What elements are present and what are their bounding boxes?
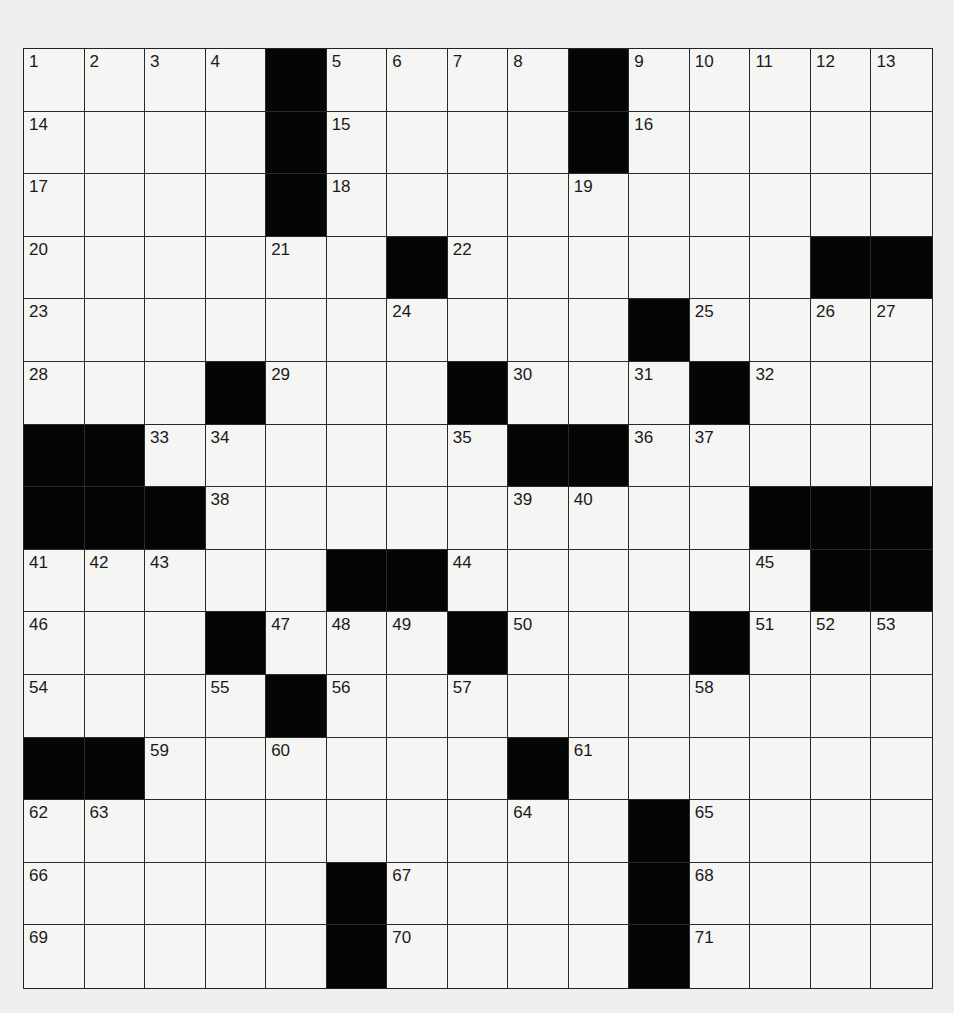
grid-cell[interactable] xyxy=(811,362,872,425)
grid-cell[interactable] xyxy=(85,237,146,300)
grid-cell[interactable] xyxy=(145,800,206,863)
grid-cell[interactable]: 29 xyxy=(266,362,327,425)
grid-cell[interactable] xyxy=(387,362,448,425)
grid-cell[interactable]: 14 xyxy=(24,112,85,175)
grid-cell[interactable] xyxy=(508,237,569,300)
grid-cell[interactable]: 43 xyxy=(145,550,206,613)
grid-cell[interactable]: 51 xyxy=(750,612,811,675)
grid-cell[interactable] xyxy=(448,863,509,926)
grid-cell[interactable] xyxy=(508,863,569,926)
grid-cell[interactable] xyxy=(871,362,932,425)
grid-cell[interactable] xyxy=(448,174,509,237)
grid-cell[interactable] xyxy=(629,675,690,738)
grid-cell[interactable] xyxy=(448,487,509,550)
grid-cell[interactable] xyxy=(85,362,146,425)
grid-cell[interactable] xyxy=(508,675,569,738)
grid-cell[interactable] xyxy=(508,112,569,175)
grid-cell[interactable]: 22 xyxy=(448,237,509,300)
grid-cell[interactable] xyxy=(629,738,690,801)
grid-cell[interactable] xyxy=(871,863,932,926)
grid-cell[interactable] xyxy=(327,800,388,863)
grid-cell[interactable]: 2 xyxy=(85,49,146,112)
grid-cell[interactable] xyxy=(145,863,206,926)
grid-cell[interactable]: 62 xyxy=(24,800,85,863)
grid-cell[interactable] xyxy=(569,800,630,863)
grid-cell[interactable]: 52 xyxy=(811,612,872,675)
grid-cell[interactable] xyxy=(327,237,388,300)
grid-cell[interactable]: 57 xyxy=(448,675,509,738)
grid-cell[interactable] xyxy=(387,112,448,175)
grid-cell[interactable] xyxy=(750,675,811,738)
grid-cell[interactable]: 34 xyxy=(206,425,267,488)
grid-cell[interactable] xyxy=(629,612,690,675)
grid-cell[interactable] xyxy=(508,550,569,613)
grid-cell[interactable] xyxy=(85,299,146,362)
grid-cell[interactable] xyxy=(750,425,811,488)
grid-cell[interactable] xyxy=(145,112,206,175)
grid-cell[interactable]: 17 xyxy=(24,174,85,237)
grid-cell[interactable]: 68 xyxy=(690,863,751,926)
grid-cell[interactable] xyxy=(266,550,327,613)
grid-cell[interactable] xyxy=(85,112,146,175)
grid-cell[interactable]: 12 xyxy=(811,49,872,112)
grid-cell[interactable] xyxy=(871,112,932,175)
grid-cell[interactable] xyxy=(750,237,811,300)
grid-cell[interactable] xyxy=(327,425,388,488)
grid-cell[interactable]: 46 xyxy=(24,612,85,675)
grid-cell[interactable] xyxy=(85,925,146,988)
grid-cell[interactable]: 10 xyxy=(690,49,751,112)
grid-cell[interactable]: 61 xyxy=(569,738,630,801)
grid-cell[interactable]: 40 xyxy=(569,487,630,550)
grid-cell[interactable] xyxy=(811,112,872,175)
grid-cell[interactable] xyxy=(145,925,206,988)
grid-cell[interactable] xyxy=(569,362,630,425)
grid-cell[interactable] xyxy=(145,675,206,738)
grid-cell[interactable] xyxy=(750,925,811,988)
grid-cell[interactable]: 27 xyxy=(871,299,932,362)
grid-cell[interactable]: 24 xyxy=(387,299,448,362)
grid-cell[interactable] xyxy=(750,299,811,362)
grid-cell[interactable]: 56 xyxy=(327,675,388,738)
grid-cell[interactable] xyxy=(266,425,327,488)
grid-cell[interactable] xyxy=(811,174,872,237)
grid-cell[interactable]: 20 xyxy=(24,237,85,300)
grid-cell[interactable]: 23 xyxy=(24,299,85,362)
grid-cell[interactable] xyxy=(690,237,751,300)
grid-cell[interactable]: 32 xyxy=(750,362,811,425)
grid-cell[interactable]: 37 xyxy=(690,425,751,488)
grid-cell[interactable] xyxy=(569,299,630,362)
grid-cell[interactable] xyxy=(569,237,630,300)
grid-cell[interactable] xyxy=(690,487,751,550)
grid-cell[interactable]: 19 xyxy=(569,174,630,237)
grid-cell[interactable]: 38 xyxy=(206,487,267,550)
grid-cell[interactable]: 25 xyxy=(690,299,751,362)
grid-cell[interactable] xyxy=(206,550,267,613)
grid-cell[interactable]: 41 xyxy=(24,550,85,613)
grid-cell[interactable] xyxy=(387,675,448,738)
grid-cell[interactable]: 67 xyxy=(387,863,448,926)
grid-cell[interactable] xyxy=(266,863,327,926)
grid-cell[interactable] xyxy=(327,362,388,425)
grid-cell[interactable] xyxy=(448,925,509,988)
grid-cell[interactable]: 71 xyxy=(690,925,751,988)
grid-cell[interactable] xyxy=(448,738,509,801)
grid-cell[interactable] xyxy=(690,550,751,613)
grid-cell[interactable] xyxy=(569,612,630,675)
grid-cell[interactable] xyxy=(266,299,327,362)
grid-cell[interactable]: 53 xyxy=(871,612,932,675)
grid-cell[interactable] xyxy=(387,174,448,237)
grid-cell[interactable] xyxy=(387,425,448,488)
grid-cell[interactable] xyxy=(508,925,569,988)
grid-cell[interactable]: 33 xyxy=(145,425,206,488)
grid-cell[interactable] xyxy=(871,738,932,801)
grid-cell[interactable] xyxy=(206,237,267,300)
grid-cell[interactable]: 16 xyxy=(629,112,690,175)
grid-cell[interactable] xyxy=(508,174,569,237)
grid-cell[interactable]: 31 xyxy=(629,362,690,425)
grid-cell[interactable]: 42 xyxy=(85,550,146,613)
grid-cell[interactable] xyxy=(871,925,932,988)
grid-cell[interactable] xyxy=(85,612,146,675)
grid-cell[interactable] xyxy=(387,487,448,550)
grid-cell[interactable]: 49 xyxy=(387,612,448,675)
grid-cell[interactable]: 58 xyxy=(690,675,751,738)
